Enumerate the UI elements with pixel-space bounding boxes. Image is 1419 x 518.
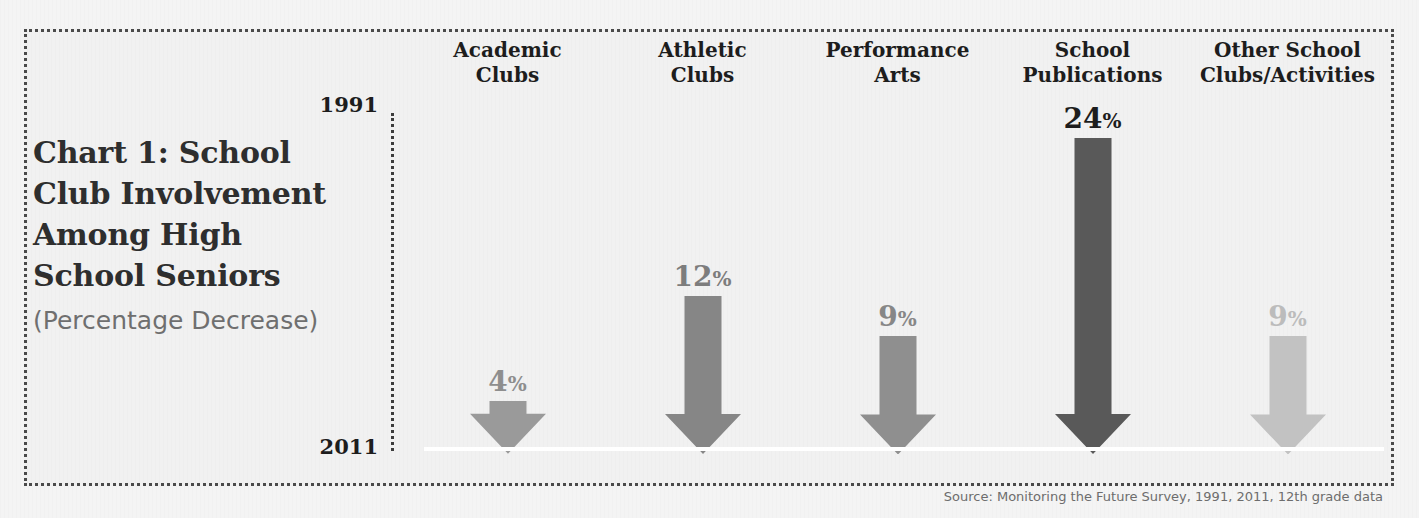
percent-sign: % <box>1288 307 1307 331</box>
column-header-line2: Publications <box>995 63 1190 88</box>
column-header-line1: Athletic <box>605 38 800 63</box>
vertical-axis-dotted-line <box>391 113 394 451</box>
chart-column: PerformanceArts9% <box>800 36 995 454</box>
column-header-line1: Other School <box>1190 38 1385 63</box>
down-arrow-icon <box>1250 336 1326 455</box>
column-header: Other SchoolClubs/Activities <box>1190 38 1385 88</box>
arrow-group: 12% <box>605 262 800 454</box>
chart-column: AthleticClubs12% <box>605 36 800 454</box>
column-header-line1: School <box>995 38 1190 63</box>
column-header: PerformanceArts <box>800 38 995 88</box>
column-header-line2: Clubs/Activities <box>1190 63 1385 88</box>
value-label: 12% <box>605 262 800 294</box>
axis-year-bottom: 2011 <box>258 434 378 459</box>
chart-column: Other SchoolClubs/Activities9% <box>1190 36 1385 454</box>
percent-sign: % <box>508 372 527 396</box>
chart-column: SchoolPublications24% <box>995 36 1190 454</box>
source-note: Source: Monitoring the Future Survey, 19… <box>944 489 1383 504</box>
value-number: 4 <box>488 365 507 398</box>
column-header-line1: Academic <box>410 38 605 63</box>
column-header-line2: Clubs <box>605 63 800 88</box>
down-arrow-icon <box>860 336 936 455</box>
percent-sign: % <box>1102 109 1121 133</box>
value-number: 12 <box>674 260 713 293</box>
value-label: 9% <box>800 302 995 334</box>
arrow-group: 9% <box>800 302 995 455</box>
value-number: 9 <box>878 300 897 333</box>
column-header: AthleticClubs <box>605 38 800 88</box>
down-arrow-icon <box>665 296 741 454</box>
axis-year-top: 1991 <box>258 92 378 117</box>
column-header: AcademicClubs <box>410 38 605 88</box>
chart-subtitle: (Percentage Decrease) <box>33 304 363 338</box>
value-label: 9% <box>1190 302 1385 334</box>
column-header-line2: Arts <box>800 63 995 88</box>
column-header-line2: Clubs <box>410 63 605 88</box>
page-title: Chart 1: School Club Involvement Among H… <box>33 132 363 296</box>
value-number: 9 <box>1268 300 1287 333</box>
arrow-group: 9% <box>1190 302 1385 455</box>
value-label: 4% <box>410 367 605 399</box>
plot-area: AcademicClubs4%AthleticClubs12%Performan… <box>410 36 1385 454</box>
arrow-group: 4% <box>410 367 605 454</box>
baseline-2011 <box>424 447 1384 451</box>
arrow-group: 24% <box>995 104 1190 454</box>
title-block: Chart 1: School Club Involvement Among H… <box>33 132 363 338</box>
chart-column: AcademicClubs4% <box>410 36 605 454</box>
column-header: SchoolPublications <box>995 38 1190 88</box>
chart-page: Chart 1: School Club Involvement Among H… <box>0 0 1419 518</box>
down-arrow-icon <box>1055 138 1131 454</box>
percent-sign: % <box>712 267 731 291</box>
percent-sign: % <box>898 307 917 331</box>
column-header-line1: Performance <box>800 38 995 63</box>
value-label: 24% <box>995 104 1190 136</box>
value-number: 24 <box>1064 102 1103 135</box>
